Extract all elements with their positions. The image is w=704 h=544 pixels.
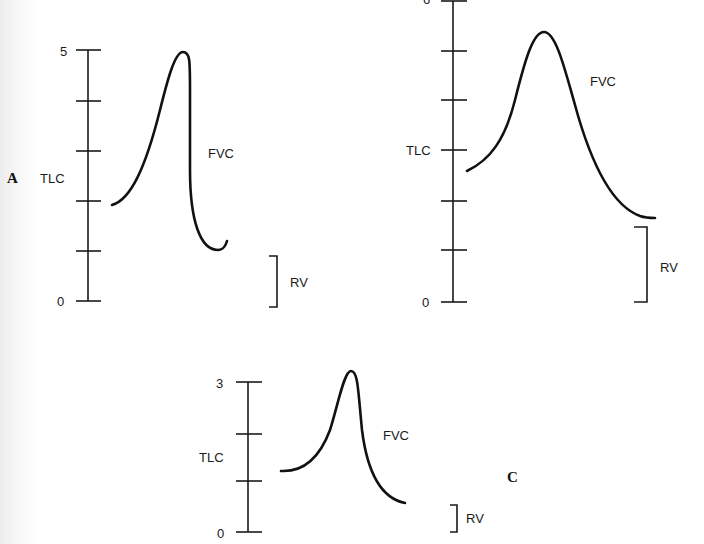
panel-a-fvc-label: FVC	[208, 146, 234, 161]
panel-b-axis-bottom-label: 0	[422, 295, 429, 310]
panel-b-axis-top-label: 6	[423, 0, 430, 7]
panel-b-rv-label: RV	[660, 260, 678, 275]
panel-b-rv-bracket	[634, 227, 647, 302]
panel-a-axis-top-label: 5	[60, 44, 67, 59]
panel-a-tlc-label: TLC	[40, 171, 65, 186]
panel-c-tlc-label: TLC	[199, 450, 224, 465]
panel-b-fvc-label: FVC	[590, 74, 616, 89]
panel-b-fvc-curve	[467, 32, 655, 218]
panel-a: A TLC 5 0 FVC RV	[7, 44, 308, 309]
spirometry-figure: A TLC 5 0 FVC RV TLC 6	[0, 0, 704, 544]
panel-b-tlc-label: TLC	[406, 143, 431, 158]
panel-c: TLC 3 0 FVC C RV	[199, 371, 518, 541]
panel-c-rv-label: RV	[466, 511, 484, 526]
panel-b: TLC 6 0 FVC RV	[406, 0, 678, 310]
panel-a-rv-label: RV	[290, 275, 308, 290]
panel-c-axis-bottom-label: 0	[217, 526, 224, 541]
panel-c-volume-axis	[236, 382, 262, 532]
panel-a-volume-axis	[76, 50, 101, 301]
panel-a-axis-bottom-label: 0	[57, 294, 64, 309]
panel-b-volume-axis	[441, 1, 467, 302]
panel-a-letter: A	[7, 170, 18, 186]
panel-c-letter: C	[507, 469, 518, 485]
panel-a-rv-bracket	[269, 256, 277, 307]
panel-c-axis-top-label: 3	[216, 376, 223, 391]
panel-c-fvc-label: FVC	[383, 428, 409, 443]
panel-c-rv-bracket	[450, 505, 457, 532]
